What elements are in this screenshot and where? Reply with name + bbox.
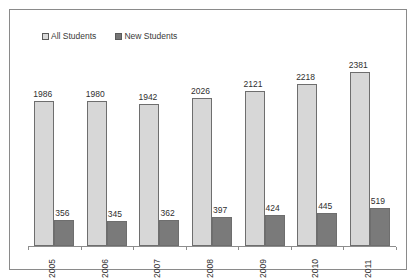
x-axis-tick <box>81 247 82 250</box>
bar-new-2011[interactable] <box>370 208 390 246</box>
bar-all-2005[interactable] <box>34 101 54 246</box>
legend-swatch-light-icon <box>42 33 49 40</box>
bar-new-2010[interactable] <box>317 213 337 246</box>
legend-label-new-students: New Students <box>124 32 177 41</box>
bar-new-2008[interactable] <box>212 217 232 246</box>
x-axis-tick <box>396 247 397 250</box>
x-axis-baseline <box>28 246 396 247</box>
plot-area: 1986356198034519423622026397212142422184… <box>28 56 396 246</box>
bar-group: 1986356 <box>34 56 74 246</box>
bar-value-label-all-2010: 2218 <box>296 73 315 82</box>
bar-group: 2026397 <box>192 56 232 246</box>
bar-all-2007[interactable] <box>139 104 159 246</box>
legend-item-new-students[interactable]: New Students <box>115 32 177 41</box>
bar-value-label-all-2008: 2026 <box>191 87 210 96</box>
bar-new-2007[interactable] <box>159 220 179 246</box>
bar-all-2010[interactable] <box>297 84 317 246</box>
bar-all-2008[interactable] <box>192 98 212 246</box>
x-axis-label-2007: 2007 <box>153 259 162 278</box>
x-axis-tick <box>238 247 239 250</box>
bar-value-label-new-2005: 356 <box>55 209 69 218</box>
x-axis-tick <box>343 247 344 250</box>
bar-new-2005[interactable] <box>54 220 74 246</box>
x-axis-label-2008: 2008 <box>206 259 215 278</box>
bar-value-label-new-2007: 362 <box>160 209 174 218</box>
legend-label-all-students: All Students <box>51 32 96 41</box>
bar-value-label-new-2006: 345 <box>108 210 122 219</box>
x-axis-tick <box>186 247 187 250</box>
x-axis-tick <box>291 247 292 250</box>
bar-group: 1942362 <box>139 56 179 246</box>
bar-value-label-all-2005: 1986 <box>33 90 52 99</box>
bar-group: 2381519 <box>350 56 390 246</box>
legend-item-all-students[interactable]: All Students <box>42 32 96 41</box>
chart-frame: All Students New Students 19863561980345… <box>9 9 407 270</box>
x-axis-label-2009: 2009 <box>259 259 268 278</box>
bar-all-2009[interactable] <box>245 91 265 246</box>
x-axis-label-2005: 2005 <box>48 259 57 278</box>
bar-value-label-new-2011: 519 <box>371 197 385 206</box>
bar-all-2011[interactable] <box>350 72 370 246</box>
bar-value-label-all-2009: 2121 <box>244 80 263 89</box>
bar-value-label-new-2008: 397 <box>213 206 227 215</box>
bar-new-2006[interactable] <box>107 221 127 246</box>
bar-group: 2121424 <box>245 56 285 246</box>
bar-value-label-all-2011: 2381 <box>349 61 368 70</box>
x-axis-tick <box>133 247 134 250</box>
x-axis-label-2011: 2011 <box>364 260 373 278</box>
bar-value-label-all-2006: 1980 <box>86 90 105 99</box>
bar-new-2009[interactable] <box>265 215 285 246</box>
bar-group: 1980345 <box>87 56 127 246</box>
bar-value-label-new-2009: 424 <box>266 204 280 213</box>
legend-swatch-dark-icon <box>115 33 122 40</box>
bar-value-label-all-2007: 1942 <box>138 93 157 102</box>
bar-all-2006[interactable] <box>87 101 107 246</box>
bar-value-label-new-2010: 445 <box>318 202 332 211</box>
x-axis-label-2006: 2006 <box>101 259 110 278</box>
x-axis-tick <box>28 247 29 250</box>
bar-group: 2218445 <box>297 56 337 246</box>
x-axis-label-2010: 2010 <box>311 259 320 278</box>
chart-legend: All Students New Students <box>42 30 177 42</box>
